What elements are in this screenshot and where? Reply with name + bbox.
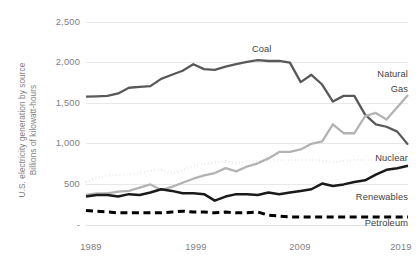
y-axis-title-line1: U.S. electricity generation by source <box>18 62 27 197</box>
x-tick-1989: 1989 <box>80 242 101 252</box>
series-line-petroleum <box>86 210 408 217</box>
x-tick-2009: 2009 <box>289 242 310 252</box>
chart-canvas: 2,500 2,000 1,500 1,000 500 - 1989 1999 … <box>0 0 416 269</box>
series-label-petroleum: Petroleum <box>365 218 408 228</box>
y-tick-500: 500 <box>64 179 80 189</box>
y-tick-0: - <box>77 220 80 230</box>
series-label-renewables: Renewables <box>356 192 408 202</box>
y-axis-ticks: 2,500 2,000 1,500 1,000 500 - <box>56 17 80 230</box>
line-chart: 2,500 2,000 1,500 1,000 500 - 1989 1999 … <box>0 0 416 269</box>
y-axis-title: U.S. electricity generation by source Bi… <box>18 62 38 197</box>
series-line-nuclear <box>86 159 408 182</box>
y-tick-1000: 1,000 <box>56 138 80 148</box>
y-tick-2500: 2,500 <box>56 17 80 27</box>
series-line-coal <box>86 60 408 144</box>
series-label-natural-gas-line1: Natural <box>377 69 408 79</box>
y-tick-2000: 2,000 <box>56 57 80 67</box>
y-axis-title-line2: Billions of kilowatt-hours <box>29 85 38 175</box>
x-tick-1999: 1999 <box>185 242 206 252</box>
x-axis-ticks: 1989 1999 2009 2019 <box>80 242 411 252</box>
series-label-natural-gas-line2: Gas <box>391 84 409 94</box>
series-label-nuclear: Nuclear <box>375 153 408 163</box>
series-labels: Coal Natural Gas Nuclear Renewables Petr… <box>252 44 408 228</box>
series-label-coal: Coal <box>252 44 272 54</box>
x-tick-2019: 2019 <box>390 242 411 252</box>
y-tick-1500: 1,500 <box>56 98 80 108</box>
